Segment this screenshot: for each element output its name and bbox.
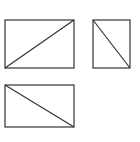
diagonal-line [93,20,130,68]
diagonal-line [5,20,74,68]
rect-narrow-top [93,20,130,68]
diagonal-line [5,85,74,127]
rect-wide-top [5,20,74,68]
rect-wide-bottom [5,85,74,127]
diagram-canvas [0,0,140,142]
